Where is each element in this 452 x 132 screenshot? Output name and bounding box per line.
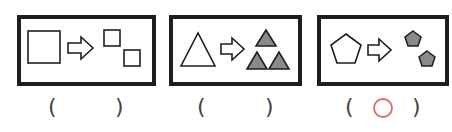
arrow-right-icon — [221, 38, 244, 60]
answer-1-close-paren: ) — [115, 94, 124, 120]
answer-3-slot[interactable] — [371, 96, 395, 120]
circle-mark-icon — [371, 96, 395, 120]
arrow-right-icon — [368, 39, 391, 61]
answer-1-slot[interactable] — [72, 96, 96, 120]
small-gray-triangle-icon — [256, 30, 276, 46]
arrow-right-icon — [68, 37, 93, 59]
large-triangle-icon — [181, 33, 215, 66]
large-pentagon-icon — [331, 34, 361, 63]
pentagon-transform-figure — [321, 19, 445, 82]
large-square-icon — [28, 31, 60, 63]
panel-pentagon — [317, 15, 449, 86]
small-gray-pentagon-icon — [405, 31, 421, 46]
panel-square — [17, 15, 156, 86]
answer-3-open-paren: ( — [345, 94, 354, 120]
answer-2-slot[interactable] — [222, 96, 246, 120]
small-gray-triangle-icon — [247, 52, 267, 69]
panel-triangle — [169, 15, 302, 86]
answer-1-open-paren: ( — [48, 94, 57, 120]
answer-2-close-paren: ) — [265, 94, 274, 120]
triangle-transform-figure — [173, 19, 298, 82]
answer-2-open-paren: ( — [197, 94, 206, 120]
small-square-icon — [104, 30, 120, 46]
small-square-icon — [124, 50, 140, 66]
small-gray-pentagon-icon — [419, 51, 435, 66]
answer-3-close-paren: ) — [412, 94, 421, 120]
small-gray-triangle-icon — [269, 52, 289, 69]
square-transform-figure — [21, 19, 152, 82]
